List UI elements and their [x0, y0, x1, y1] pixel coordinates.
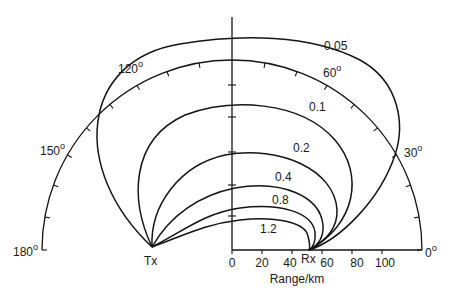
range-tick-20: 20 [255, 256, 269, 270]
contour-label-0.8: 0.8 [272, 193, 289, 207]
transmitter-label: Tx [144, 254, 157, 268]
angle-label-150: 150o [40, 141, 65, 158]
angle-label-180: 180o [13, 242, 38, 259]
angle-label-30: 30o [404, 143, 422, 160]
contour-label-0.2: 0.2 [293, 141, 310, 155]
contour-0.1 [138, 105, 352, 250]
bistatic-contour-figure: 180o 150o 120o 60o 30o 0o 0 20 40 60 80 … [0, 0, 455, 298]
range-axis-label: Range/km [270, 272, 325, 286]
contour-0.4 [152, 186, 323, 250]
contour-label-0.1: 0.1 [309, 100, 326, 114]
range-tick-100: 100 [375, 256, 395, 270]
contour-label-0.05: 0.05 [324, 39, 348, 53]
contour-label-1.2: 1.2 [260, 222, 277, 236]
receiver-label: Rx [301, 252, 316, 266]
range-tick-40: 40 [283, 256, 297, 270]
range-tick-0: 0 [229, 256, 236, 270]
range-tick-60: 60 [320, 256, 334, 270]
contour-0.8 [152, 207, 315, 250]
contours: 0.05 0.1 0.2 0.4 0.8 1.2 [97, 38, 399, 250]
angle-label-120: 120o [118, 59, 143, 76]
angle-label-60: 60o [323, 63, 341, 80]
angle-label-0: 0o [425, 243, 437, 260]
range-axis: 0 20 40 60 80 100 Range/km [229, 250, 422, 286]
contour-label-0.4: 0.4 [275, 170, 292, 184]
range-tick-80: 80 [350, 256, 364, 270]
angle-scale: 180o 150o 120o 60o 30o 0o [13, 59, 437, 260]
vertical-axis [228, 17, 236, 250]
